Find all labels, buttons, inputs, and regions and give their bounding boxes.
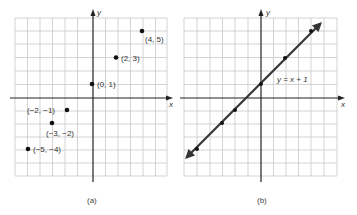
point-label: (2, 3) — [121, 54, 140, 63]
caption-b: (b) — [257, 196, 267, 205]
panel-a: y x (4, 5) (2, 3) (0, 1) (−2, −1) (−3, −… — [10, 8, 174, 205]
x-axis-label-a: x — [168, 100, 174, 109]
x-axis-label-b: x — [340, 100, 346, 109]
y-axis-label-a: y — [96, 8, 102, 17]
y-axis-label-b: y — [265, 8, 271, 17]
point-0-1 — [90, 82, 95, 87]
caption-a: (a) — [87, 196, 97, 205]
line-point — [233, 108, 237, 112]
line-point — [259, 82, 263, 86]
line-y-equals-x-plus-1 — [189, 25, 319, 155]
y-arrow-icon — [91, 9, 96, 16]
point-label: (−2, −1) — [27, 106, 55, 115]
point-4-5 — [140, 29, 145, 34]
figure: y x (4, 5) (2, 3) (0, 1) (−2, −1) (−3, −… — [0, 0, 357, 215]
y-arrow-icon — [259, 9, 264, 16]
panel-b: y x y = x + 1 (b) — [180, 8, 346, 205]
line-point — [195, 147, 199, 151]
line-point — [220, 121, 224, 125]
point-label: (0, 1) — [97, 80, 116, 89]
point-label: (4, 5) — [145, 35, 164, 44]
equation-label: y = x + 1 — [276, 75, 308, 84]
point-neg2-neg1 — [65, 108, 70, 113]
line-point — [283, 56, 287, 60]
line-point — [309, 29, 313, 33]
point-label: (−3, −2) — [46, 129, 74, 138]
point-neg3-neg2 — [50, 121, 55, 126]
point-label: (−5, −4) — [33, 145, 61, 154]
point-2-3 — [114, 55, 119, 60]
point-neg5-neg4 — [26, 147, 31, 152]
